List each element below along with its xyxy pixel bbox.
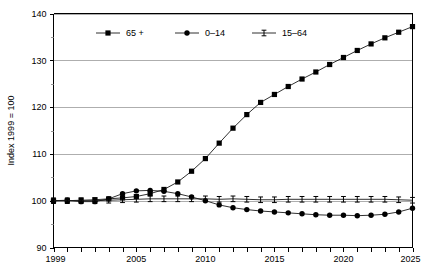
data-point-marker-1 [175,179,180,184]
data-point-marker-2 [147,188,152,193]
legend-item-1[interactable]: 65 + [96,28,144,38]
data-point-marker-legend-1 [105,30,110,35]
chart-legend: 65 +0–1415–64 [96,28,307,38]
data-point-marker-2 [341,213,346,218]
y-axis-tick-labels: 90100110120130140 [31,9,46,253]
data-point-marker-2 [368,213,373,218]
y-tick-label: 100 [31,196,46,206]
data-point-marker-2 [244,207,249,212]
x-axis-tick-labels: 199920052010201520202025 [45,254,420,264]
data-point-marker-1 [341,55,346,60]
x-tick-label: 2005 [126,254,146,264]
x-tick-label: 2025 [400,254,420,264]
data-point-marker-2 [327,213,332,218]
data-point-marker-1 [327,62,332,67]
data-point-marker-1 [368,41,373,46]
x-tick-label: 2010 [195,254,215,264]
series-markers-2 [51,188,415,219]
data-point-marker-legend-2 [184,30,189,35]
data-point-marker-2 [120,191,125,196]
legend-label-1: 65 + [126,28,144,38]
data-point-marker-1 [258,100,263,105]
y-tick-label: 140 [31,9,46,19]
data-point-marker-2 [410,205,415,210]
data-point-marker-2 [299,211,304,216]
series-1 [51,24,415,203]
y-tick-label: 90 [36,243,46,253]
y-tick-label: 120 [31,102,46,112]
data-point-marker-1 [189,169,194,174]
data-series-group [51,24,415,218]
legend-item-2[interactable]: 0–14 [175,28,225,38]
gridlines-group [54,15,413,202]
line-chart: 90100110120130140 1999200520102015202020… [0,0,426,275]
y-axis-title-text: Index 1999 = 100 [6,96,16,166]
data-point-marker-2 [396,209,401,214]
data-point-marker-1 [244,112,249,117]
data-point-marker-1 [203,156,208,161]
data-point-marker-1 [355,48,360,53]
x-tick-label: 2020 [333,254,353,264]
data-point-marker-2 [272,209,277,214]
y-tick-label: 110 [32,149,46,159]
series-2 [51,188,415,219]
data-point-marker-2 [161,189,166,194]
x-tick-label: 1999 [45,254,65,264]
data-point-marker-1 [410,24,415,29]
data-point-marker-2 [134,188,139,193]
data-point-marker-2 [216,202,221,207]
data-point-marker-2 [355,213,360,218]
data-point-marker-2 [258,208,263,213]
data-point-marker-1 [230,126,235,131]
x-tick-label: 2015 [264,254,284,264]
data-point-marker-1 [272,92,277,97]
chart-container: 90100110120130140 1999200520102015202020… [0,0,426,275]
data-point-marker-1 [286,84,291,89]
legend-item-3[interactable]: 15–64 [252,28,307,38]
legend-label-2: 0–14 [205,28,225,38]
legend-label-3: 15–64 [282,28,307,38]
series-markers-1 [51,24,415,203]
y-axis-title: Index 1999 = 100 [6,96,16,166]
y-tick-label: 130 [31,56,46,66]
data-point-marker-1 [382,35,387,40]
data-point-marker-1 [217,141,222,146]
data-point-marker-1 [299,76,304,81]
data-point-marker-2 [382,212,387,217]
data-point-marker-2 [230,205,235,210]
data-point-marker-2 [286,210,291,215]
data-point-marker-2 [313,212,318,217]
data-point-marker-1 [396,30,401,35]
data-point-marker-1 [313,69,318,74]
